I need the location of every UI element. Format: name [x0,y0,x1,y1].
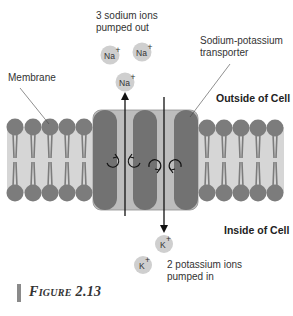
svg-text:+: + [166,234,171,244]
transporter-subunit-1 [93,110,117,210]
caption-bar [17,284,21,302]
membrane-label: Membrane [8,72,56,84]
potassium-ion-1: K+ [155,234,173,253]
sodium-out-label: 3 sodium ions pumped out [96,10,158,34]
svg-text:Na: Na [119,78,130,88]
svg-text:+: + [116,45,121,55]
potassium-ion-2: K+ [134,255,152,274]
svg-text:+: + [148,42,153,52]
figure-caption: Figure 2.13 [29,284,101,300]
sodium-ion-2: Na+ [133,42,153,62]
svg-text:+: + [145,255,150,265]
svg-text:Na: Na [136,48,147,58]
svg-text:+: + [131,72,136,82]
transporter-label: Sodium-potassium transporter [200,35,283,59]
potassium-in-label: 2 potassium ions pumped in [167,259,242,283]
sodium-potassium-transporter [93,110,198,210]
sodium-out-label-line1: 3 sodium ions [96,10,158,22]
sodium-ion-1: Na+ [101,45,121,65]
potassium-in-label-line2: pumped in [167,271,242,283]
transporter-leader-line [190,64,230,117]
outside-of-cell-label: Outside of Cell [216,92,290,104]
potassium-in-label-line1: 2 potassium ions [167,259,242,271]
sodium-out-label-line2: pumped out [96,22,158,34]
sodium-ion-3: Na+ [116,72,136,92]
membrane-leader-line [20,88,49,124]
inside-of-cell-label: Inside of Cell [224,224,289,236]
transporter-label-line1: Sodium-potassium [200,35,283,47]
transporter-label-line2: transporter [200,47,283,59]
svg-text:Na: Na [104,51,115,61]
